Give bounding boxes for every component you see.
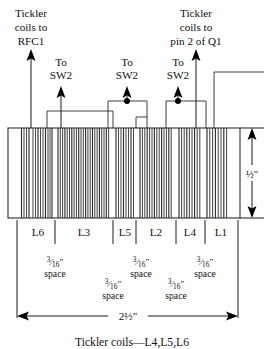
coil-label-L6: L6 [32, 226, 45, 238]
tap-middle: To SW2 [108, 56, 147, 128]
tap-right-line-2: SW2 [167, 69, 189, 81]
tap-left-line-2: SW2 [50, 69, 72, 81]
height-label: ½" [246, 169, 258, 180]
space-4-unit: " [180, 279, 184, 289]
figure-caption: Tickler coils—L4,L5,L6 [75, 336, 189, 349]
tap-middle-line-1: To [121, 56, 133, 68]
space-annotation-4: 3⁄16" space [165, 277, 186, 301]
tap-right: To SW2 [166, 56, 206, 128]
space-2-unit: " [117, 279, 121, 289]
tap-middle-junction-dot [124, 98, 130, 104]
space-3-unit: " [145, 257, 149, 267]
space-annotation-5: 3⁄16" space [194, 255, 215, 279]
tap-right-line-1: To [172, 56, 184, 68]
width-label: 2½" [119, 310, 138, 322]
coil-labels: L6 L3 L5 L2 L4 L1 [32, 226, 227, 238]
space-1-fraction: 3⁄16" [47, 255, 64, 269]
space-1-unit: " [59, 257, 63, 267]
tap-left-line-1: To [55, 56, 67, 68]
space-5-word: space [194, 268, 215, 279]
right-return-wire [214, 72, 264, 128]
coil-label-L3: L3 [78, 226, 91, 238]
tap-left-bracket [47, 111, 113, 128]
callout-rfc1-line-3: RFC1 [18, 35, 45, 47]
coil-label-L5: L5 [119, 226, 132, 238]
space-4-word: space [165, 290, 186, 301]
tap-middle-line-2: SW2 [116, 69, 138, 81]
height-dimension: ½" [240, 128, 264, 218]
space-4-fraction: 3⁄16" [168, 277, 185, 291]
space-5-fraction: 3⁄16" [197, 255, 214, 269]
tap-right-upper-bracket [166, 101, 206, 117]
width-dimension: 2½" [17, 307, 238, 324]
coil-label-L4: L4 [184, 226, 197, 238]
right-return-path [214, 72, 264, 128]
coil-diagram-svg: Tickler coils to RFC1 Tickler coils to p… [0, 0, 264, 349]
callout-q1pin2-line-3: pin 2 of Q1 [170, 35, 221, 47]
callout-q1pin2-line-2: coils to [180, 21, 213, 33]
callout-rfc1-line-1: Tickler [15, 7, 47, 19]
tap-middle-drop-right [136, 117, 147, 128]
space-3-word: space [130, 268, 151, 279]
space-annotation-3: 3⁄16" space [130, 255, 151, 279]
space-5-unit: " [209, 257, 213, 267]
space-annotation-2: 3⁄16" space [102, 277, 123, 301]
space-annotations: 3⁄16" space 3⁄16" space 3⁄16" space [44, 255, 215, 301]
space-2-fraction: 3⁄16" [105, 277, 122, 291]
space-annotation-1: 3⁄16" space [44, 255, 65, 279]
coil-label-L2: L2 [150, 226, 162, 238]
tap-left: To SW2 [47, 56, 113, 128]
space-1-word: space [44, 268, 65, 279]
space-2-word: space [102, 290, 123, 301]
callout-rfc1: Tickler coils to RFC1 [15, 7, 48, 128]
callout-rfc1-line-2: coils to [15, 21, 48, 33]
callout-q1pin2-line-1: Tickler [180, 7, 212, 19]
space-3-fraction: 3⁄16" [133, 255, 150, 269]
winding-band-L4 [179, 128, 200, 218]
coil-label-L1: L1 [215, 226, 227, 238]
tap-right-junction-dot [175, 98, 181, 104]
tickler-coil-diagram: Tickler coils to RFC1 Tickler coils to p… [0, 0, 264, 349]
